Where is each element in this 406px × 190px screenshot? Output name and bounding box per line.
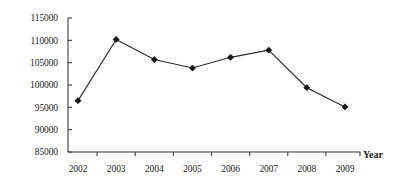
x-axis-tick-label: 2009 [336,164,355,174]
y-axis-tick-label: 100000 [30,80,58,90]
chart-background [0,0,406,190]
x-axis-title: Year [363,149,384,160]
chart-canvas: 850009000095000100000105000110000115000 … [0,0,406,190]
y-axis-tick-label: 85000 [35,147,59,157]
y-axis-tick-label: 90000 [35,125,59,135]
x-axis-tick-label: 2006 [221,164,240,174]
y-axis-tick-label: 105000 [30,58,58,68]
x-axis-tick-label: 2007 [259,164,278,174]
x-axis-tick-label: 2005 [183,164,202,174]
line-chart: 850009000095000100000105000110000115000 … [0,0,406,190]
x-axis-tick-label: 2002 [69,164,88,174]
x-axis-tick-label: 2003 [107,164,126,174]
y-axis-tick-label: 115000 [30,13,58,23]
x-axis-tick-label: 2008 [298,164,317,174]
y-axis-tick-label: 110000 [30,36,58,46]
x-axis-tick-label: 2004 [145,164,164,174]
y-axis-tick-label: 95000 [35,103,59,113]
